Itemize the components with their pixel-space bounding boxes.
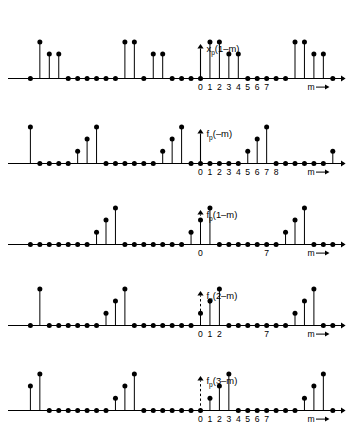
- sample-dot: [217, 242, 222, 247]
- sample-dot: [37, 39, 42, 44]
- axis-variable-arrowhead-icon: [325, 251, 330, 256]
- sample-dot: [113, 205, 118, 210]
- origin-arrow-icon: [197, 129, 203, 134]
- sample-dot: [151, 161, 156, 166]
- sample-dot: [283, 408, 288, 413]
- panel-function-label: fp(–m): [207, 128, 233, 142]
- sample-dot: [198, 408, 203, 413]
- origin-arrow-icon: [197, 210, 203, 215]
- sample-dot: [122, 39, 127, 44]
- axis-variable-label: m: [307, 82, 314, 92]
- sample-dot: [189, 161, 194, 166]
- axis-arrow-icon: [341, 160, 346, 166]
- sample-dot: [283, 323, 288, 328]
- sample-dot: [302, 161, 307, 166]
- sample-dot: [37, 286, 42, 291]
- sample-dot: [179, 124, 184, 129]
- sample-dot: [274, 408, 279, 413]
- sample-dot: [37, 242, 42, 247]
- sample-dot: [132, 371, 137, 376]
- axis-arrow-icon: [341, 241, 346, 247]
- sample-dot: [179, 242, 184, 247]
- sample-dot: [198, 311, 203, 316]
- sample-dot: [330, 242, 335, 247]
- sample-dot: [226, 371, 231, 376]
- panel-function-label: fp(3–m): [207, 375, 238, 389]
- sample-dot: [255, 323, 260, 328]
- sample-dot: [75, 408, 80, 413]
- tick-label: 4: [236, 167, 241, 177]
- sample-dot: [245, 149, 250, 154]
- sample-dot: [189, 230, 194, 235]
- axis-variable-arrowhead-icon: [325, 332, 330, 337]
- sample-dot: [94, 408, 99, 413]
- sample-dot: [141, 76, 146, 81]
- sample-dot: [330, 149, 335, 154]
- sample-dot: [141, 408, 146, 413]
- sample-dot: [170, 408, 175, 413]
- sample-dot: [122, 242, 127, 247]
- tick-label: 7: [264, 82, 269, 92]
- sample-dot: [132, 323, 137, 328]
- panel-function-label: fp(1–m): [207, 209, 238, 223]
- sample-dot: [321, 242, 326, 247]
- sample-dot: [47, 52, 52, 57]
- sample-dot: [122, 384, 127, 389]
- sample-dot: [189, 76, 194, 81]
- tick-label: 6: [255, 82, 260, 92]
- sample-dot: [160, 242, 165, 247]
- sample-dot: [122, 161, 127, 166]
- sample-dot: [245, 76, 250, 81]
- tick-label: 6: [255, 414, 260, 424]
- sample-dot: [283, 161, 288, 166]
- sample-dot: [302, 299, 307, 304]
- sample-dot: [37, 371, 42, 376]
- axis-variable-label: m: [307, 414, 314, 424]
- tick-label: 7: [264, 414, 269, 424]
- sample-dot: [274, 76, 279, 81]
- stem-panel-1: xp(1–m)01234567m: [8, 39, 346, 92]
- sample-dot: [226, 242, 231, 247]
- tick-label: 7: [264, 248, 269, 258]
- sample-dot: [217, 384, 222, 389]
- stem-panel-4: fp(2–m)0127m: [8, 286, 346, 339]
- tick-label: 2: [217, 167, 222, 177]
- sample-dot: [274, 323, 279, 328]
- sample-dot: [113, 396, 118, 401]
- sample-dot: [113, 299, 118, 304]
- sample-dot: [160, 52, 165, 57]
- sample-dot: [132, 161, 137, 166]
- sample-dot: [189, 323, 194, 328]
- axis-variable-arrowhead-icon: [325, 417, 330, 422]
- sample-dot: [132, 39, 137, 44]
- sample-dot: [170, 242, 175, 247]
- sample-dot: [104, 161, 109, 166]
- sample-dot: [151, 242, 156, 247]
- sample-dot: [66, 408, 71, 413]
- sample-dot: [66, 161, 71, 166]
- sample-dot: [66, 323, 71, 328]
- axis-variable-label: m: [307, 329, 314, 339]
- sample-dot: [207, 205, 212, 210]
- sample-dot: [274, 161, 279, 166]
- origin-arrow-icon: [197, 376, 203, 381]
- sample-dot: [28, 124, 33, 129]
- sample-dot: [85, 137, 90, 142]
- sample-dot: [94, 323, 99, 328]
- tick-label: 1: [208, 329, 213, 339]
- tick-label: 8: [274, 167, 279, 177]
- tick-label: 3: [226, 414, 231, 424]
- sample-dot: [311, 161, 316, 166]
- sample-dot: [226, 52, 231, 57]
- sample-dot: [321, 323, 326, 328]
- sample-dot: [132, 242, 137, 247]
- sample-dot: [85, 408, 90, 413]
- sample-dot: [170, 137, 175, 142]
- sample-dot: [207, 396, 212, 401]
- tick-label: 5: [245, 167, 250, 177]
- sample-dot: [75, 76, 80, 81]
- sample-dot: [56, 242, 61, 247]
- axis-arrow-icon: [341, 322, 346, 328]
- sample-dot: [56, 52, 61, 57]
- tick-label: 1: [208, 82, 213, 92]
